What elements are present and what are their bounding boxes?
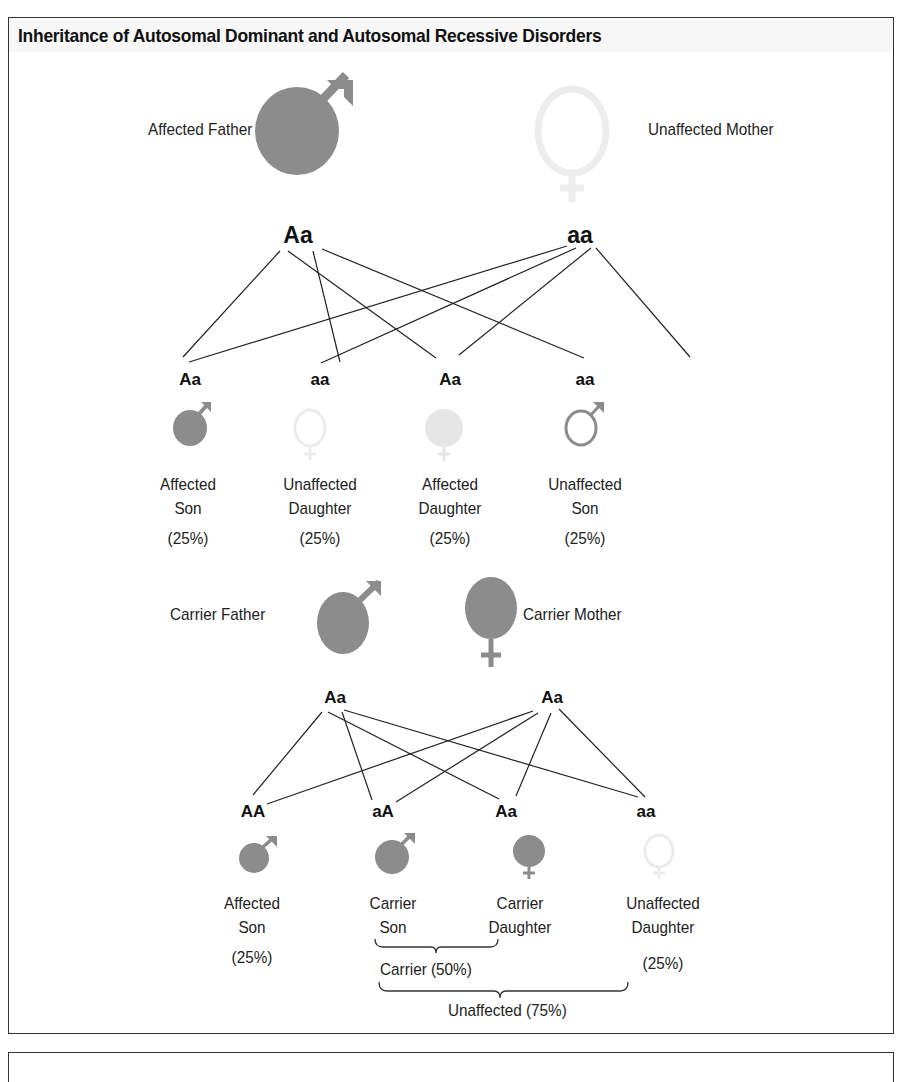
child-label-affected-son: Affected Son (25%) xyxy=(198,892,306,970)
child-icon-affected-son xyxy=(173,402,211,446)
child-label-unaffected-son: Unaffected Son (25%) xyxy=(531,473,639,551)
child-genotype: AA xyxy=(225,802,281,822)
child-label-affected-daughter: Affected Daughter (25%) xyxy=(396,473,504,551)
child-genotype: aa xyxy=(555,370,615,390)
unaffected-mother-label: Unaffected Mother xyxy=(648,120,774,140)
carrier-summary-label: Carrier (50%) xyxy=(380,958,497,982)
inheritance-lines-dominant xyxy=(183,246,690,363)
carrier-father-label: Carrier Father xyxy=(170,605,265,625)
child-genotype: aa xyxy=(618,802,674,822)
father-genotype: Aa xyxy=(270,222,326,249)
child-label-affected-son: Affected Son (25%) xyxy=(134,473,242,551)
child-icon-carrier-daughter xyxy=(513,835,545,879)
child-label-unaffected-daughter: Unaffected Daughter (25%) xyxy=(266,473,374,551)
child-label-carrier-daughter: Carrier Daughter xyxy=(462,892,579,940)
unaffected-summary-label: Unaffected (75%) xyxy=(448,999,592,1023)
child-genotype: aa xyxy=(290,370,350,390)
child-genotype: Aa xyxy=(420,370,480,390)
female-filled-icon xyxy=(465,577,517,667)
child-genotype: Aa xyxy=(478,802,534,822)
child-icon-affected-daughter xyxy=(425,409,463,461)
carrier-bracket xyxy=(375,939,498,953)
child-label-unaffected-daughter: Unaffected Daughter (25%) xyxy=(605,892,722,976)
child-icon-carrier-son xyxy=(375,833,415,874)
mother-genotype: aa xyxy=(552,222,608,249)
mother-genotype: Aa xyxy=(532,688,572,708)
unaffected-bracket xyxy=(379,982,628,998)
child-genotype: aA xyxy=(355,802,411,822)
child-icon-unaffected-daughter xyxy=(295,410,325,460)
male-filled-icon xyxy=(317,581,381,654)
carrier-mother-label: Carrier Mother xyxy=(523,605,622,625)
child-label-carrier-son: Carrier Son xyxy=(339,892,447,940)
child-icon-unaffected-son xyxy=(566,402,604,445)
female-outline-icon xyxy=(538,89,606,202)
father-genotype: Aa xyxy=(315,688,355,708)
male-filled-icon xyxy=(255,75,353,175)
inheritance-lines-recessive xyxy=(253,709,645,804)
child-genotype: Aa xyxy=(160,370,220,390)
child-icon-affected-son xyxy=(239,836,277,873)
affected-father-label: Affected Father xyxy=(148,120,252,140)
child-icon-unaffected-daughter xyxy=(645,835,673,879)
